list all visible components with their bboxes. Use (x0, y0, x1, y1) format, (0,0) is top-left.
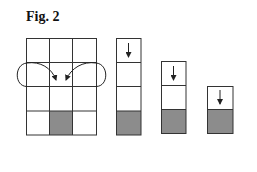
diagram-canvas (0, 0, 257, 172)
column-four-cells (117, 39, 142, 136)
shaded-cell (208, 110, 234, 134)
left-curved-arrow-icon (17, 63, 56, 87)
column-three-cells (162, 62, 187, 134)
shaded-cell (117, 111, 142, 135)
shaded-cell (162, 110, 187, 134)
main-grid (27, 39, 97, 136)
right-curved-arrow-icon (66, 63, 106, 87)
column-two-cells (208, 87, 234, 134)
shaded-cell (50, 111, 73, 135)
